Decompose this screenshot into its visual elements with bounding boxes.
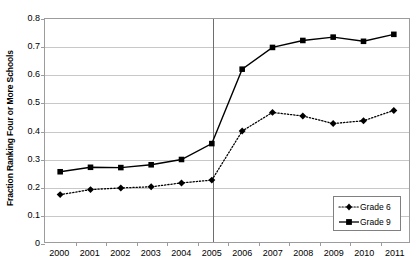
x-tickmark <box>259 242 260 246</box>
x-tickmark <box>198 242 199 246</box>
y-tick-label: 0.4 <box>14 126 40 136</box>
x-tickmark <box>289 242 290 246</box>
data-point-marker <box>361 39 367 45</box>
y-tick-label: 0.5 <box>14 97 40 107</box>
y-tickmark <box>41 244 45 245</box>
y-tick-label: 0.6 <box>14 69 40 79</box>
data-point-marker <box>57 169 63 175</box>
x-tickmark <box>381 242 382 246</box>
y-tick-label: 0.8 <box>14 13 40 23</box>
legend: Grade 6 Grade 9 <box>333 196 401 231</box>
x-tickmark <box>137 242 138 246</box>
line-chart: Fraction Ranking Four or More Schools 00… <box>0 0 416 277</box>
x-tickmark <box>167 242 168 246</box>
x-tickmark <box>228 242 229 246</box>
data-point-marker <box>118 165 124 171</box>
y-tick-label: 0.2 <box>14 182 40 192</box>
series-grade-9 <box>57 32 396 175</box>
data-point-marker <box>330 120 337 127</box>
y-tick-label: 0.3 <box>14 154 40 164</box>
legend-symbol-grade-9 <box>338 216 360 228</box>
data-point-marker <box>179 157 185 163</box>
y-tick-label: 0 <box>14 238 40 248</box>
data-point-marker <box>239 128 246 135</box>
data-point-marker <box>57 191 64 198</box>
data-point-marker <box>300 38 306 44</box>
data-point-marker <box>87 186 94 193</box>
data-point-marker <box>239 66 245 72</box>
series-line <box>60 110 394 194</box>
data-point-marker <box>360 117 367 124</box>
legend-item-grade-6[interactable]: Grade 6 <box>334 199 400 214</box>
data-point-marker <box>117 184 124 191</box>
x-tickmark <box>106 242 107 246</box>
legend-label-grade-6: Grade 6 <box>360 201 391 213</box>
data-point-marker <box>148 183 155 190</box>
x-tickmark <box>350 242 351 246</box>
y-tick-label: 0.1 <box>14 210 40 220</box>
series-line <box>60 34 394 171</box>
data-point-marker <box>269 109 276 116</box>
data-point-marker <box>299 113 306 120</box>
data-point-marker <box>330 34 336 40</box>
data-point-marker <box>390 107 397 114</box>
series-grade-6 <box>57 107 398 198</box>
x-tick-label: 2011 <box>375 247 415 259</box>
legend-label-grade-9: Grade 9 <box>360 216 391 228</box>
x-axis-tick-labels: 2000200120022003200420052006200720082009… <box>44 247 410 263</box>
legend-item-grade-9[interactable]: Grade 9 <box>334 214 400 229</box>
data-point-marker <box>148 162 154 168</box>
data-point-marker <box>209 141 215 147</box>
y-tick-label: 0.7 <box>14 41 40 51</box>
legend-symbol-grade-6 <box>338 201 360 213</box>
data-point-marker <box>178 179 185 186</box>
x-tickmark <box>320 242 321 246</box>
x-tickmark <box>76 242 77 246</box>
y-axis-tick-labels: 00.10.20.30.40.50.60.70.8 <box>12 0 40 277</box>
data-point-marker <box>208 177 215 184</box>
data-point-marker <box>88 165 94 171</box>
data-point-marker <box>270 45 276 51</box>
data-point-marker <box>391 32 397 38</box>
